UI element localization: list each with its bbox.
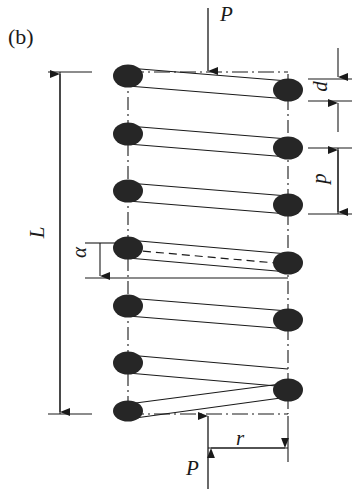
wire-cross-section xyxy=(113,352,143,375)
wire-cross-section xyxy=(113,65,143,88)
wire-cross-section xyxy=(273,79,303,102)
coil-radius-label: r xyxy=(236,428,244,449)
wire-cross-section xyxy=(113,237,143,260)
wire-cross-section xyxy=(273,379,303,402)
wire-cross-section xyxy=(113,180,143,203)
panel-label: (b) xyxy=(8,26,34,48)
top-load-label: P xyxy=(220,4,233,25)
wire-cross-section xyxy=(113,123,143,146)
coil-silhouette-lines xyxy=(128,74,288,414)
wire-cross-section xyxy=(273,252,303,275)
spring-end-centerlines xyxy=(128,72,288,414)
spring-diagram-canvas xyxy=(0,0,355,489)
coil-bands xyxy=(128,68,288,419)
wire-cross-section xyxy=(113,401,143,422)
dimension-coil-radius xyxy=(208,416,288,462)
wire-cross-section xyxy=(273,194,303,217)
pitch-label: p xyxy=(309,173,330,184)
bottom-load-label: P xyxy=(186,458,199,479)
wire-cross-section xyxy=(273,137,303,160)
helix-angle-label: α xyxy=(69,247,90,258)
wire-cross-section xyxy=(273,309,303,332)
wire-cross-sections-left xyxy=(113,65,143,422)
spring-diagram-figure: (b) P P L d p r α xyxy=(0,0,355,489)
free-length-label: L xyxy=(27,227,48,239)
wire-diameter-label: d xyxy=(310,81,331,92)
wire-cross-section xyxy=(113,295,143,318)
